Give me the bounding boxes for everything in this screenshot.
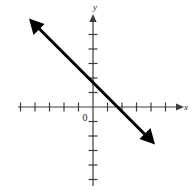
graph-canvas: x y 0 (0, 0, 196, 195)
axes-group (18, 14, 184, 186)
plotted-line-group (29, 19, 155, 145)
y-axis-label: y (92, 2, 97, 12)
coordinate-plane-figure: x y 0 (0, 0, 196, 195)
x-axis-label: x (183, 102, 188, 112)
x-axis-arrow-icon (176, 103, 184, 110)
origin-label: 0 (83, 112, 88, 123)
y-axis-arrow-icon (89, 14, 96, 22)
